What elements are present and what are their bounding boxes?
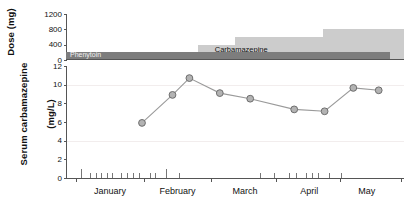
phenytoin-band-label: Phenytoin xyxy=(70,51,101,59)
dosing-event-tick xyxy=(133,173,134,178)
serum-data-point xyxy=(247,95,254,102)
serum-data-point xyxy=(139,120,146,127)
dose-panel-ticklabel: 800 xyxy=(49,25,62,34)
x-axis-tick xyxy=(76,178,77,182)
serum-data-point xyxy=(291,106,298,113)
dosing-event-tick xyxy=(260,173,261,178)
dosing-event-tick xyxy=(329,173,330,178)
serum-panel-ticklabel: 8 xyxy=(58,99,62,108)
dosing-event-tick xyxy=(150,173,151,178)
dose-panel-tickmark xyxy=(64,60,67,61)
dose-panel-ticklabel: 400 xyxy=(49,40,62,49)
serum-panel-ticklabel: 6 xyxy=(58,118,62,127)
serum-panel-ticklabel: 12 xyxy=(53,62,62,71)
x-axis-tick xyxy=(211,178,212,182)
dose-axis-ticklabels: 04008001200 xyxy=(32,14,62,60)
serum-axis-ticklabels: 024681012 xyxy=(32,66,62,178)
serum-panel xyxy=(66,66,404,178)
dosing-event-tick xyxy=(155,173,156,178)
dosing-event-tick xyxy=(296,173,297,178)
dosing-event-tick xyxy=(121,173,122,178)
dose-panel-ticklabel: 1200 xyxy=(44,10,62,19)
serum-panel-ticklabel: 0 xyxy=(58,174,62,183)
dosing-event-tick xyxy=(179,173,180,178)
dosing-event-tick xyxy=(274,173,275,178)
dosing-event-tick xyxy=(96,173,97,178)
serum-panel-ticklabel: 4 xyxy=(58,136,62,145)
dosing-event-tick xyxy=(90,173,91,178)
x-axis xyxy=(66,178,404,179)
dose-baseline xyxy=(66,59,404,60)
dosing-event-tick xyxy=(112,173,113,178)
dosing-event-tick xyxy=(101,173,102,178)
chart-figure: Dose (mg) Serum carbamazepine (mg/L) 040… xyxy=(0,0,408,210)
serum-data-point xyxy=(321,108,328,115)
serum-axis-title: Serum carbamazepine xyxy=(18,56,30,172)
dosing-event-tick xyxy=(306,173,307,178)
dosing-event-tick xyxy=(289,173,290,178)
serum-panel-ticklabel: 10 xyxy=(53,80,62,89)
x-axis-month-label: May xyxy=(327,186,407,196)
serum-panel-ticklabel: 2 xyxy=(58,155,62,164)
dosing-event-tick xyxy=(318,173,319,178)
serum-line xyxy=(142,78,379,123)
dosing-event-tick xyxy=(312,173,313,178)
serum-data-point xyxy=(169,92,176,99)
dosing-event-tick xyxy=(127,173,128,178)
dose-panel: CarbamazepinePhenytoin xyxy=(66,14,404,60)
serum-series xyxy=(66,66,404,178)
x-axis-tick xyxy=(276,178,277,182)
x-axis-tick xyxy=(401,178,402,182)
serum-data-point xyxy=(216,90,223,97)
serum-data-point xyxy=(186,75,193,82)
serum-data-point xyxy=(375,87,382,94)
dosing-event-tick xyxy=(166,169,167,178)
dosing-event-tick xyxy=(81,169,82,178)
dosing-event-tick xyxy=(107,173,108,178)
dosing-event-tick xyxy=(139,173,140,178)
dose-axis-title: Dose (mg) xyxy=(5,4,17,60)
serum-markers xyxy=(139,75,383,127)
serum-data-point xyxy=(350,85,357,92)
x-axis-tick xyxy=(340,178,341,182)
dosing-event-tick xyxy=(341,173,342,178)
x-axis-tick xyxy=(144,178,145,182)
